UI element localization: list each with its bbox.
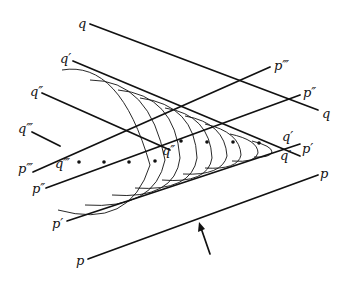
wavelet-arcs bbox=[58, 69, 272, 215]
line-q-triple-prime bbox=[32, 132, 60, 146]
direction-arrow bbox=[198, 222, 210, 254]
label-p-prime: p′ bbox=[52, 216, 63, 231]
label-p-double-prime-right: p″ bbox=[303, 85, 316, 100]
label-p-triple-prime-right: p‴ bbox=[274, 58, 289, 73]
label-q-double-prime: q″ bbox=[30, 84, 43, 99]
label-q-triple-prime-center: q‴ bbox=[55, 156, 70, 171]
label-q-double-prime-center: q″ bbox=[162, 143, 175, 158]
label-q-prime-apex-bottom: q′ bbox=[280, 148, 291, 163]
wavefront-diagram: q q q′ q′ q′ q″ q″ q‴ q‴ p p p′ p′ p″ p″… bbox=[0, 0, 346, 284]
line-p bbox=[88, 175, 318, 259]
label-p-double-prime: p″ bbox=[32, 181, 45, 196]
label-p: p bbox=[76, 253, 85, 268]
line-q-prime-upper bbox=[73, 61, 300, 156]
line-p-prime bbox=[67, 144, 300, 221]
label-q: q bbox=[78, 16, 86, 31]
label-q-right: q bbox=[322, 106, 330, 121]
label-q-triple-prime: q‴ bbox=[18, 121, 33, 136]
label-p-triple-prime: p‴ bbox=[18, 161, 33, 176]
label-q-prime-apex-top: q′ bbox=[282, 129, 293, 144]
line-q-double-prime bbox=[42, 93, 170, 150]
label-q-prime: q′ bbox=[60, 51, 71, 66]
label-p-prime-right: p′ bbox=[302, 141, 313, 156]
label-p-right: p bbox=[320, 166, 329, 181]
